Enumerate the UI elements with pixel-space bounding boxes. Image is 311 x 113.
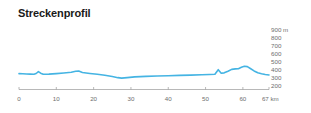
x-axis-tick-label: 40 [165,95,172,102]
y-axis-tick-label: 300 [271,75,281,81]
x-axis-ticks [19,87,269,90]
y-axis-tick-label: 600 [271,51,281,57]
y-axis-tick-label: 200 [271,83,281,89]
x-axis-tick-label: 30 [127,95,134,102]
y-axis-labels: 900 m800700600500400300200 [271,27,311,91]
chart-plot-area [0,24,311,94]
x-axis-tick-label: 0 [17,95,20,102]
elevation-profile-line [19,66,269,78]
x-axis-tick-label: 67 km [262,95,279,102]
x-axis-tick-label: 60 [239,95,246,102]
x-axis-tick-label: 50 [202,95,209,102]
y-axis-tick-label: 500 [271,59,281,65]
page-title: Streckenprofil [18,7,91,19]
elevation-profile-widget: Streckenprofil 900 m80070060050040030020… [0,0,311,113]
y-axis-tick-label: 700 [271,43,281,49]
elevation-profile-chart [0,24,311,94]
x-axis-labels: 010203040506067 km [0,95,311,107]
y-axis-tick-label: 400 [271,67,281,73]
y-axis-tick-label: 900 m [271,27,288,33]
y-axis-tick-label: 800 [271,35,281,41]
x-axis-tick-label: 20 [90,95,97,102]
x-axis-tick-label: 10 [53,95,60,102]
